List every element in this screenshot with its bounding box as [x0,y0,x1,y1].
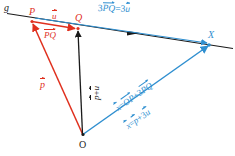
p-vector [33,24,83,134]
point-dot-o [81,133,84,136]
three-u-vector [35,18,207,43]
diagram-canvas [0,0,235,156]
point-dot-p [30,20,33,23]
point-dot-q [76,27,79,30]
p-plus-u-vector [78,31,83,134]
vector-diagram: g P Q X O u PQ p p+u 3PQ=3u x=OP+3PQ x=p… [0,0,235,156]
point-dot-x [207,43,211,47]
x-vector [84,46,209,134]
